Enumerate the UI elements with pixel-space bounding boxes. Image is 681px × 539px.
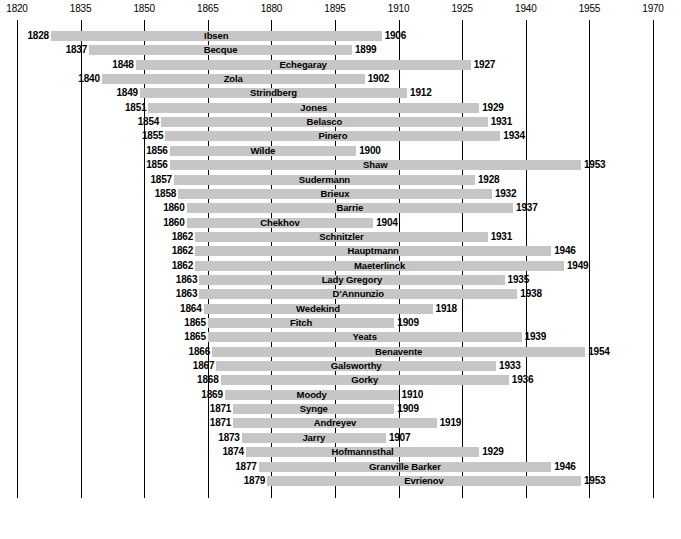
gridline-stub xyxy=(526,429,527,433)
timeline-row[interactable]: 18651909Fitch xyxy=(0,318,681,328)
death-year-label: 1929 xyxy=(482,447,503,457)
timeline-row[interactable]: 18561953Shaw xyxy=(0,160,681,170)
gridline-stub xyxy=(653,99,654,103)
timeline-plot-area: 18281906Ibsen18371899Becque18481927Echeg… xyxy=(0,0,681,539)
timeline-row[interactable]: 18631938D'Annunzio xyxy=(0,289,681,299)
gridline-stub xyxy=(335,328,336,332)
gridline-stub xyxy=(81,56,82,60)
gridline-stub xyxy=(399,214,400,218)
playwright-name-label: Brieux xyxy=(321,189,350,199)
timeline-row[interactable]: 18651939Yeats xyxy=(0,332,681,342)
gridline-stub xyxy=(17,300,18,304)
birth-year-label: 1849 xyxy=(117,88,138,98)
timeline-row[interactable]: 18601937Barrie xyxy=(0,203,681,213)
timeline-row[interactable]: 18691910Moody xyxy=(0,390,681,400)
gridline-stub xyxy=(399,142,400,146)
gridline-stub xyxy=(589,142,590,146)
timeline-row[interactable]: 18711919Andreyev xyxy=(0,418,681,428)
birth-year-label: 1871 xyxy=(210,404,231,414)
gridline-stub xyxy=(462,400,463,404)
birth-year-label: 1871 xyxy=(210,418,231,428)
timeline-row[interactable]: 18551934Pinero xyxy=(0,131,681,141)
gridline-stub xyxy=(208,142,209,146)
timeline-row[interactable]: 18631935Lady Gregory xyxy=(0,275,681,285)
gridline-stub xyxy=(526,41,527,45)
gridline-stub xyxy=(462,228,463,232)
timeline-row[interactable]: 18711909Synge xyxy=(0,404,681,414)
gridline-stub xyxy=(81,27,82,31)
gridline-stub xyxy=(589,257,590,261)
timeline-row[interactable]: 18581932Brieux xyxy=(0,189,681,199)
gridline-stub xyxy=(653,214,654,218)
death-year-label: 1907 xyxy=(389,433,410,443)
birth-year-label: 1873 xyxy=(218,433,239,443)
gridline-stub xyxy=(335,242,336,246)
death-year-label: 1899 xyxy=(355,45,376,55)
gridline-stub xyxy=(462,458,463,462)
gridline-stub xyxy=(17,127,18,131)
gridline-stub xyxy=(144,386,145,390)
timeline-row[interactable]: 18791953Evrienov xyxy=(0,476,681,486)
timeline-row[interactable]: 18571928Sudermann xyxy=(0,175,681,185)
gridline-stub xyxy=(17,99,18,103)
timeline-row[interactable]: 18511929Jones xyxy=(0,103,681,113)
timeline-row[interactable]: 18741929Hofmannsthal xyxy=(0,447,681,457)
gridline-stub xyxy=(17,314,18,318)
gridline-stub xyxy=(208,314,209,318)
timeline-row[interactable]: 18491912Strindberg xyxy=(0,88,681,98)
playwright-name-label: Yeats xyxy=(353,332,377,342)
timeline-row[interactable]: 18401902Zola xyxy=(0,74,681,84)
gridline-stub xyxy=(17,271,18,275)
gridline-stub xyxy=(17,242,18,246)
timeline-row[interactable]: 18601904Chekhov xyxy=(0,218,681,228)
gridline-stub xyxy=(144,171,145,175)
gridline-stub xyxy=(653,84,654,88)
death-year-label: 1909 xyxy=(397,318,418,328)
gridline-stub xyxy=(144,443,145,447)
timeline-row[interactable]: 18681936Gorky xyxy=(0,375,681,385)
gridline-stub xyxy=(526,400,527,404)
gridline-stub xyxy=(462,199,463,203)
gridline-stub xyxy=(17,443,18,447)
gridline-stub xyxy=(17,84,18,88)
timeline-row[interactable]: 18661954Benavente xyxy=(0,347,681,357)
gridline-stub xyxy=(144,486,145,490)
gridline-stub xyxy=(462,242,463,246)
gridline-stub xyxy=(144,185,145,189)
timeline-row[interactable]: 18281906Ibsen xyxy=(0,31,681,41)
playwright-name-label: Echegaray xyxy=(280,60,327,70)
gridline-stub xyxy=(81,228,82,232)
gridline-stub xyxy=(589,242,590,246)
gridline-stub xyxy=(589,486,590,490)
death-year-label: 1918 xyxy=(436,304,457,314)
gridline-stub xyxy=(208,156,209,160)
playwright-name-label: Strindberg xyxy=(250,88,297,98)
timeline-row[interactable]: 18621946Hauptmann xyxy=(0,246,681,256)
timeline-row[interactable]: 18541931Belasco xyxy=(0,117,681,127)
timeline-row[interactable]: 18641918Wedekind xyxy=(0,304,681,314)
timeline-row[interactable]: 18771946Granville Barker xyxy=(0,462,681,472)
death-year-label: 1929 xyxy=(482,103,503,113)
gridline-stub xyxy=(462,214,463,218)
timeline-row[interactable]: 18371899Becque xyxy=(0,45,681,55)
gridline-stub xyxy=(17,400,18,404)
gridline-stub xyxy=(335,458,336,462)
timeline-row[interactable]: 18671933Galsworthy xyxy=(0,361,681,371)
gridline-stub xyxy=(335,371,336,375)
timeline-row[interactable]: 18561900Wilde xyxy=(0,146,681,156)
gridline-stub xyxy=(335,84,336,88)
gridline-stub xyxy=(462,171,463,175)
playwright-name-label: Evrienov xyxy=(404,476,443,486)
gridline-stub xyxy=(462,343,463,347)
timeline-row[interactable]: 18481927Echegaray xyxy=(0,60,681,70)
timeline-row[interactable]: 18731907Jarry xyxy=(0,433,681,443)
timeline-row[interactable]: 18621931Schnitzler xyxy=(0,232,681,242)
gridline-stub xyxy=(462,357,463,361)
timeline-row[interactable]: 18621949Maeterlinck xyxy=(0,261,681,271)
gridline-stub xyxy=(335,56,336,60)
gridline-stub xyxy=(526,271,527,275)
gridline-stub xyxy=(462,328,463,332)
gridline-stub xyxy=(462,472,463,476)
gridline-stub xyxy=(81,328,82,332)
death-year-label: 1906 xyxy=(385,31,406,41)
